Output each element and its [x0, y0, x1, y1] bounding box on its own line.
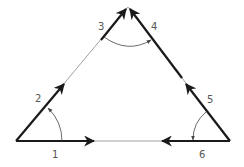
vector-4 — [130, 9, 182, 78]
diagram-canvas: 1 2 3 4 5 6 — [0, 0, 244, 167]
label-2: 2 — [35, 93, 41, 104]
vector-3 — [101, 9, 126, 40]
angle-arc-apex — [104, 37, 151, 46]
angle-arc-bottom-left — [48, 108, 62, 141]
label-6: 6 — [199, 149, 205, 160]
vector-5 — [186, 84, 230, 141]
label-3: 3 — [98, 21, 104, 32]
label-1: 1 — [52, 149, 58, 160]
triangle-diagram: 1 2 3 4 5 6 — [0, 0, 244, 167]
label-4: 4 — [151, 21, 157, 32]
angle-arc-bottom-right — [193, 112, 206, 140]
label-5: 5 — [207, 94, 213, 105]
